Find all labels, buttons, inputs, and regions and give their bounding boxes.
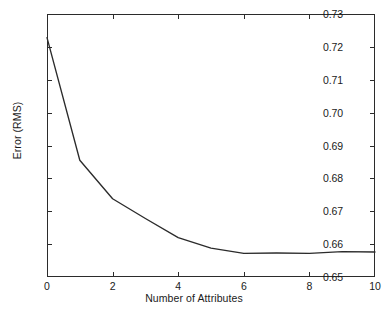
y-tick-label: 0.67: [323, 206, 343, 217]
chart-figure: 0.73 0.72 0.71 0.70 0.69 0.68 0.67 0.66 …: [0, 0, 388, 314]
x-tick-mark: [113, 272, 114, 277]
y-tick-mark: [370, 14, 375, 15]
y-tick-mark: [47, 113, 52, 114]
x-tick-label: 0: [37, 281, 57, 292]
y-tick-mark: [47, 14, 52, 15]
y-tick-mark: [370, 244, 375, 245]
y-tick-mark: [47, 211, 52, 212]
x-tick-mark: [244, 14, 245, 19]
x-axis-title: Number of Attributes: [0, 293, 388, 304]
y-tick-label: 0.68: [323, 173, 343, 184]
x-tick-label: 4: [168, 281, 188, 292]
y-tick-mark: [370, 113, 375, 114]
y-tick-mark: [47, 146, 52, 147]
y-tick-mark: [47, 47, 52, 48]
y-tick-label: 0.72: [323, 42, 343, 53]
x-tick-label: 2: [103, 281, 123, 292]
y-tick-label: 0.70: [323, 108, 343, 119]
x-tick-mark: [244, 272, 245, 277]
y-tick-mark: [370, 146, 375, 147]
y-tick-mark: [370, 178, 375, 179]
y-tick-label: 0.71: [323, 75, 343, 86]
y-tick-mark: [370, 211, 375, 212]
y-tick-label: 0.69: [323, 141, 343, 152]
y-tick-label: 0.73: [323, 9, 343, 20]
y-tick-mark: [47, 80, 52, 81]
x-tick-mark: [178, 14, 179, 19]
x-tick-mark: [309, 14, 310, 19]
y-tick-mark: [47, 178, 52, 179]
x-tick-mark: [178, 272, 179, 277]
x-tick-label: 6: [234, 281, 254, 292]
y-tick-label: 0.66: [323, 239, 343, 250]
x-tick-mark: [309, 272, 310, 277]
y-axis-title: Error (RMS): [12, 76, 23, 186]
x-tick-mark: [47, 272, 48, 277]
y-tick-mark: [370, 80, 375, 81]
x-tick-mark: [113, 14, 114, 19]
y-tick-mark: [370, 47, 375, 48]
x-tick-label: 10: [365, 281, 385, 292]
x-tick-label: 8: [299, 281, 319, 292]
y-tick-label: 0.65: [323, 272, 343, 283]
y-tick-mark: [47, 244, 52, 245]
